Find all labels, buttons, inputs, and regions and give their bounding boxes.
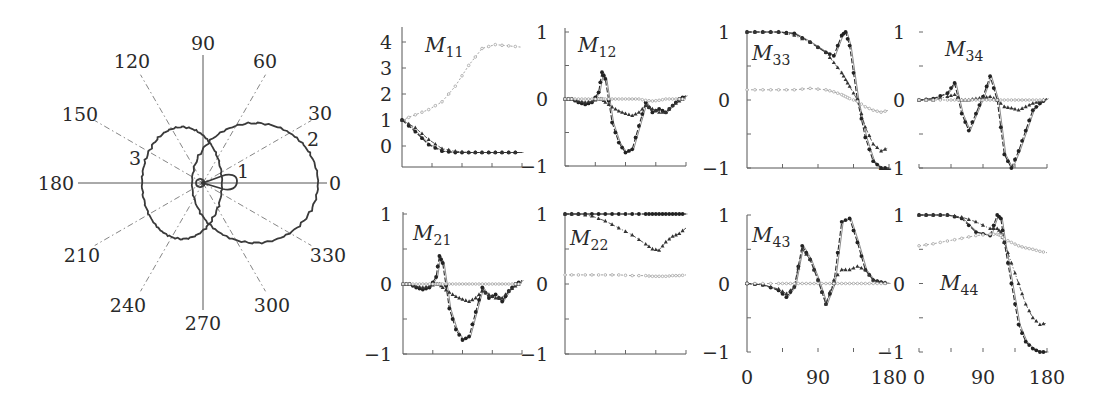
marker-open-circle bbox=[474, 283, 477, 286]
marker-open-circle bbox=[481, 47, 484, 50]
marker-open-circle bbox=[821, 282, 824, 285]
marker-triangle bbox=[1038, 322, 1042, 326]
marker-dot bbox=[436, 265, 440, 269]
y-tick-label: −1 bbox=[877, 157, 905, 179]
marker-open-circle bbox=[880, 111, 883, 114]
marker-open-circle bbox=[478, 283, 481, 286]
marker-triangle bbox=[953, 92, 957, 96]
marker-dot bbox=[1020, 331, 1024, 335]
marker-open-circle bbox=[427, 108, 430, 111]
y-tick-label: −1 bbox=[877, 341, 905, 363]
marker-triangle bbox=[1031, 316, 1035, 320]
marker-open-circle bbox=[801, 88, 804, 91]
marker-dot bbox=[974, 112, 978, 116]
marker-triangle bbox=[867, 134, 871, 138]
marker-dot bbox=[657, 212, 661, 216]
x-tick-label: 0 bbox=[741, 366, 753, 388]
marker-open-circle bbox=[939, 99, 942, 102]
marker-dot bbox=[999, 125, 1003, 129]
marker-open-circle bbox=[501, 283, 504, 286]
panel-m11: 01234M11 bbox=[380, 27, 524, 167]
x-tick-label: 0 bbox=[913, 366, 925, 388]
marker-dot bbox=[614, 131, 618, 135]
marker-open-circle bbox=[631, 98, 634, 101]
marker-triangle bbox=[464, 298, 468, 302]
marker-open-circle bbox=[953, 238, 956, 241]
marker-open-circle bbox=[960, 237, 963, 240]
marker-dot bbox=[438, 254, 442, 258]
marker-open-circle bbox=[577, 98, 580, 101]
marker-dot bbox=[597, 212, 601, 216]
y-tick-label: 0 bbox=[893, 273, 905, 295]
marker-open-circle bbox=[833, 282, 836, 285]
polar-ray-330 bbox=[203, 183, 311, 246]
marker-open-circle bbox=[884, 282, 887, 285]
marker-dot bbox=[671, 212, 675, 216]
marker-open-circle bbox=[746, 282, 749, 285]
marker-dot bbox=[1031, 108, 1035, 112]
marker-triangle bbox=[852, 266, 856, 270]
marker-open-circle bbox=[817, 282, 820, 285]
marker-open-circle bbox=[465, 283, 468, 286]
marker-open-circle bbox=[577, 274, 580, 277]
marker-open-circle bbox=[1021, 246, 1024, 249]
marker-open-circle bbox=[574, 98, 577, 101]
marker-open-circle bbox=[567, 98, 570, 101]
y-tick-label: 0 bbox=[718, 89, 730, 111]
marker-open-circle bbox=[604, 98, 607, 101]
marker-dot bbox=[992, 86, 996, 90]
marker-dot bbox=[1017, 149, 1021, 153]
x-tick-label: 180 bbox=[871, 366, 907, 388]
marker-open-circle bbox=[441, 101, 444, 104]
marker-open-circle bbox=[848, 97, 851, 100]
polar-curve-label-3: 3 bbox=[129, 147, 141, 169]
marker-open-circle bbox=[402, 283, 405, 286]
marker-open-circle bbox=[661, 98, 664, 101]
marker-open-circle bbox=[992, 233, 995, 236]
marker-dot bbox=[852, 229, 856, 233]
polar-ray-30 bbox=[203, 121, 311, 184]
panel-m12: −101M12 bbox=[520, 21, 688, 177]
marker-triangle bbox=[644, 242, 648, 246]
marker-open-circle bbox=[982, 234, 985, 237]
marker-triangle bbox=[451, 292, 455, 296]
marker-open-circle bbox=[868, 282, 871, 285]
y-tick-label: 1 bbox=[718, 204, 730, 226]
polar-curve-labels: 123 bbox=[129, 128, 319, 182]
marker-dot bbox=[471, 322, 475, 326]
marker-open-circle bbox=[432, 283, 435, 286]
marker-dot bbox=[1034, 348, 1038, 352]
y-tick-label: −1 bbox=[364, 343, 392, 365]
marker-dot bbox=[836, 251, 840, 255]
marker-open-circle bbox=[918, 245, 921, 248]
marker-open-circle bbox=[458, 283, 461, 286]
marker-open-circle bbox=[992, 99, 995, 102]
marker-open-circle bbox=[651, 100, 654, 103]
marker-dot bbox=[439, 258, 443, 262]
marker-dot bbox=[617, 212, 621, 216]
marker-dot bbox=[953, 81, 957, 85]
polar-center-point bbox=[201, 181, 205, 185]
marker-open-circle bbox=[918, 99, 921, 102]
marker-triangle bbox=[1009, 261, 1013, 265]
panel-title: M33 bbox=[751, 41, 790, 68]
marker-triangle bbox=[647, 244, 651, 248]
marker-open-circle bbox=[675, 274, 678, 277]
marker-open-circle bbox=[856, 100, 859, 103]
marker-open-circle bbox=[817, 88, 820, 91]
polar-angle-label-30: 30 bbox=[308, 102, 332, 124]
marker-dot bbox=[860, 254, 864, 258]
marker-triangle bbox=[859, 111, 863, 115]
marker-open-circle bbox=[668, 275, 671, 278]
mueller-matrix-panels: 01234M11−101M12−101M33−101M34−101M21−101… bbox=[364, 21, 1065, 388]
marker-open-circle bbox=[754, 282, 757, 285]
y-tick-label: 2 bbox=[380, 83, 392, 105]
marker-dot bbox=[413, 130, 417, 134]
series-fit-line bbox=[567, 72, 688, 152]
marker-open-circle bbox=[665, 275, 668, 278]
marker-dot bbox=[420, 136, 424, 140]
marker-open-circle bbox=[1042, 251, 1045, 254]
marker-dot bbox=[630, 212, 634, 216]
marker-triangle bbox=[427, 137, 431, 141]
marker-open-circle bbox=[675, 98, 678, 101]
